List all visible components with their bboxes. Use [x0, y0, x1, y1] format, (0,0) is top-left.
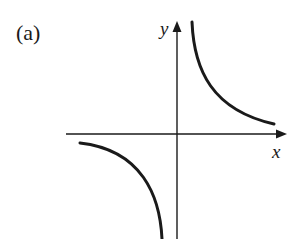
y-axis-arrow-icon: [173, 21, 182, 32]
hyperbola-branch-lower: [80, 143, 162, 239]
hyperbola-branch-upper: [192, 22, 274, 124]
hyperbola-graph: y x: [0, 0, 299, 239]
x-axis-label: x: [271, 141, 281, 162]
x-axis-arrow-icon: [276, 130, 287, 139]
y-axis-label: y: [158, 18, 169, 39]
